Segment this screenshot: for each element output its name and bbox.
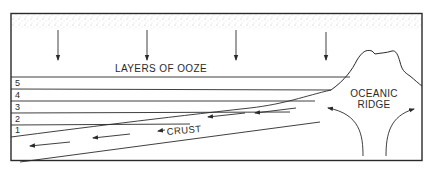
ooze-layers: [11, 77, 350, 162]
left-arrow-icon: [30, 142, 70, 146]
oceanic-ridge-label-line2: RIDGE: [357, 99, 390, 110]
layer-number-2: 2: [15, 114, 20, 124]
layer-number-3: 3: [15, 102, 20, 112]
crust-label: CRUST: [166, 123, 202, 137]
settling-arrows: [58, 30, 326, 60]
curved-arrow-left-icon: [328, 108, 363, 156]
layer-line: [11, 112, 290, 113]
ocean-surface-band: [11, 14, 422, 29]
layer-line: [11, 89, 331, 90]
crust-movement-arrows: [30, 108, 296, 146]
curved-arrow-right-icon: [386, 109, 414, 156]
left-arrow-icon: [93, 134, 130, 138]
layer-number-4: 4: [15, 90, 20, 100]
layer-number-1: 1: [15, 125, 20, 135]
layer-number-5: 5: [15, 78, 20, 88]
layer-numbers: 5 4 3 2 1: [15, 78, 20, 135]
layers-of-ooze-label: LAYERS OF OOZE: [115, 63, 207, 74]
ridge-profile: [331, 50, 422, 90]
oceanic-ridge-label-line1: OCEANIC: [350, 88, 398, 99]
layer-line: [11, 124, 190, 125]
left-arrow-icon: [208, 113, 245, 117]
left-arrow-icon: [158, 130, 165, 131]
upwelling-arrows: [328, 108, 414, 156]
seafloor-spreading-diagram: 5 4 3 2 1 LAYERS OF OOZE CRUST OCEANIC R…: [0, 0, 433, 178]
diagram-frame: [11, 14, 422, 161]
